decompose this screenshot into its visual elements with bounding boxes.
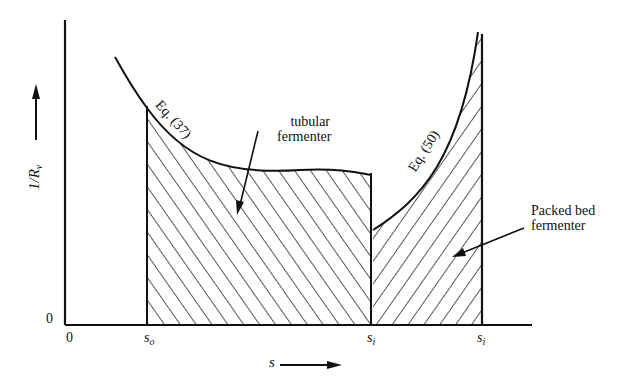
- tubular-fermenter-label: tubular fermenter: [277, 115, 331, 144]
- tubular-label-line2: fermenter: [277, 130, 331, 145]
- tick-si-1: si: [367, 331, 375, 348]
- tick-si-1-sub: i: [372, 336, 375, 347]
- packed-bed-label-line2: fermenter: [531, 219, 595, 234]
- x-origin-label: 0: [66, 331, 73, 346]
- tick-si-2: si: [477, 331, 485, 348]
- y-axis-arrow-icon: [32, 84, 40, 140]
- y-axis-label-sub: v: [33, 165, 44, 169]
- tick-si-2-sub: i: [482, 336, 485, 347]
- diagram-canvas: [0, 0, 641, 384]
- tubular-label-line1: tubular: [277, 115, 331, 130]
- packed-bed-label-line1: Packed bed: [531, 204, 595, 219]
- packed-bed-fermenter-label: Packed bed fermenter: [531, 204, 595, 233]
- y-origin-label: 0: [46, 312, 53, 327]
- y-axis-label: 1/Rv: [27, 165, 45, 190]
- tick-so-sub: o: [149, 336, 154, 347]
- x-axis-arrow-icon: [280, 361, 342, 369]
- y-axis-label-main: 1/R: [26, 169, 42, 190]
- tick-so: so: [144, 331, 154, 348]
- x-axis-label: s: [269, 355, 275, 371]
